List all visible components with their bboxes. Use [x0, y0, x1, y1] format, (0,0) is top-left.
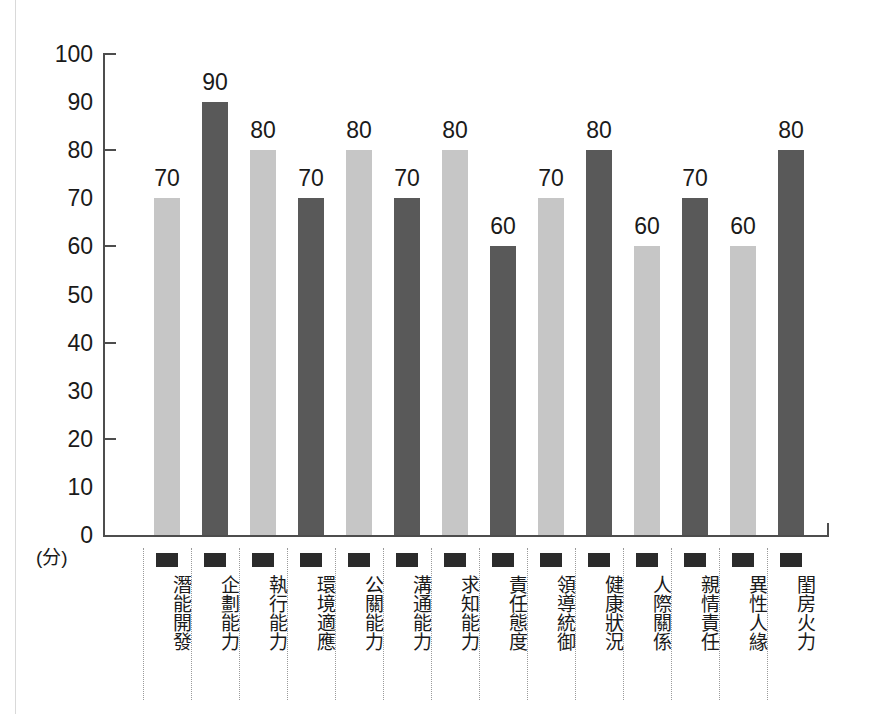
- bar-slot[interactable]: 70: [527, 54, 575, 535]
- bar-slot[interactable]: 80: [767, 54, 815, 535]
- category-label: 親情責任: [671, 575, 719, 651]
- category-marker-icon: [636, 553, 658, 567]
- y-axis-tick-label-0: 0: [80, 524, 93, 547]
- category-cell[interactable]: 環境適應: [287, 545, 335, 710]
- bar[interactable]: [490, 246, 516, 535]
- bar[interactable]: [586, 150, 612, 535]
- category-cell[interactable]: 閨房火力: [767, 545, 815, 710]
- category-label: 健康狀況: [575, 575, 623, 651]
- category-cell[interactable]: 執行能力: [239, 545, 287, 710]
- category-label: 異性人緣: [719, 575, 767, 651]
- bar-value-label: 80: [335, 119, 383, 142]
- category-label-text: 企劃能力: [218, 575, 239, 651]
- bar[interactable]: [346, 150, 372, 535]
- y-axis-tick-label-60: 60: [67, 235, 93, 258]
- bar-value-label: 70: [143, 167, 191, 190]
- category-label-text: 領導統御: [554, 575, 575, 651]
- category-marker-icon: [492, 553, 514, 567]
- bar-slot[interactable]: 80: [335, 54, 383, 535]
- bar-value-label: 70: [287, 167, 335, 190]
- category-cell[interactable]: 求知能力: [431, 545, 479, 710]
- bar-value-label: 80: [431, 119, 479, 142]
- y-axis-tick-label-100: 100: [55, 43, 93, 66]
- y-axis-tick-mark-40: [103, 342, 116, 344]
- y-axis-tick-label-40: 40: [67, 331, 93, 354]
- category-cell[interactable]: 異性人緣: [719, 545, 767, 710]
- bar-slot[interactable]: 70: [143, 54, 191, 535]
- category-cell[interactable]: 親情責任: [671, 545, 719, 710]
- y-axis-tick-mark-20: [103, 438, 116, 440]
- category-cell[interactable]: 責任態度: [479, 545, 527, 710]
- bar[interactable]: [394, 198, 420, 535]
- category-marker-icon: [780, 553, 802, 567]
- category-label: 公關能力: [335, 575, 383, 651]
- bar[interactable]: [634, 246, 660, 535]
- bar[interactable]: [298, 198, 324, 535]
- bar[interactable]: [442, 150, 468, 535]
- category-marker-icon: [540, 553, 562, 567]
- category-label-text: 人際關係: [650, 575, 671, 651]
- bar[interactable]: [154, 198, 180, 535]
- bar-slot[interactable]: 70: [671, 54, 719, 535]
- bar[interactable]: [682, 198, 708, 535]
- bar-slot[interactable]: 60: [623, 54, 671, 535]
- bar-value-label: 80: [575, 119, 623, 142]
- bar-slot[interactable]: 90: [191, 54, 239, 535]
- bar[interactable]: [202, 102, 228, 535]
- y-axis-tick-label-30: 30: [67, 379, 93, 402]
- bar[interactable]: [538, 198, 564, 535]
- category-label: 領導統御: [527, 575, 575, 651]
- category-label-text: 閨房火力: [794, 575, 815, 651]
- category-cell[interactable]: 健康狀況: [575, 545, 623, 710]
- y-axis-tick-label-20: 20: [67, 427, 93, 450]
- category-divider: [143, 548, 144, 700]
- bar-value-label: 70: [671, 167, 719, 190]
- bar-slot[interactable]: 70: [287, 54, 335, 535]
- category-label-text: 環境適應: [314, 575, 335, 651]
- bar-value-label: 60: [479, 215, 527, 238]
- category-label: 求知能力: [431, 575, 479, 651]
- category-label: 溝通能力: [383, 575, 431, 651]
- category-marker-icon: [396, 553, 418, 567]
- category-label: 閨房火力: [767, 575, 815, 651]
- category-label-text: 健康狀況: [602, 575, 623, 651]
- bar[interactable]: [730, 246, 756, 535]
- bar-slot[interactable]: 70: [383, 54, 431, 535]
- category-cell[interactable]: 潛能開發: [143, 545, 191, 710]
- bar-chart-figure: (分) 1009080706050403020100 7090807080708…: [0, 0, 875, 714]
- category-label-text: 公關能力: [362, 575, 383, 651]
- category-label: 人際關係: [623, 575, 671, 651]
- bar-slot[interactable]: 80: [239, 54, 287, 535]
- y-axis-tick-label-70: 70: [67, 187, 93, 210]
- category-marker-icon: [252, 553, 274, 567]
- category-cell[interactable]: 領導統御: [527, 545, 575, 710]
- y-axis-line: [103, 54, 105, 537]
- y-axis-tick-label-50: 50: [67, 283, 93, 306]
- category-cell[interactable]: 人際關係: [623, 545, 671, 710]
- category-cell[interactable]: 公關能力: [335, 545, 383, 710]
- bar[interactable]: [250, 150, 276, 535]
- bar-slot[interactable]: 60: [479, 54, 527, 535]
- category-cell[interactable]: 溝通能力: [383, 545, 431, 710]
- category-label-text: 潛能開發: [170, 575, 191, 651]
- bar-slot[interactable]: 80: [575, 54, 623, 535]
- bar-slot[interactable]: 60: [719, 54, 767, 535]
- bar-slot[interactable]: 80: [431, 54, 479, 535]
- category-marker-icon: [156, 553, 178, 567]
- y-axis-tick-mark-80: [103, 149, 116, 151]
- category-label: 企劃能力: [191, 575, 239, 651]
- category-label: 執行能力: [239, 575, 287, 651]
- bar[interactable]: [778, 150, 804, 535]
- bar-value-label: 70: [383, 167, 431, 190]
- category-marker-icon: [444, 553, 466, 567]
- x-axis-end-cap: [827, 523, 829, 537]
- category-cell[interactable]: 企劃能力: [191, 545, 239, 710]
- category-marker-icon: [684, 553, 706, 567]
- category-label-text: 異性人緣: [746, 575, 767, 651]
- category-label: 責任態度: [479, 575, 527, 651]
- y-axis-tick-label-80: 80: [67, 139, 93, 162]
- category-marker-icon: [300, 553, 322, 567]
- category-marker-icon: [204, 553, 226, 567]
- y-axis-tick-mark-60: [103, 245, 116, 247]
- bar-value-label: 90: [191, 71, 239, 94]
